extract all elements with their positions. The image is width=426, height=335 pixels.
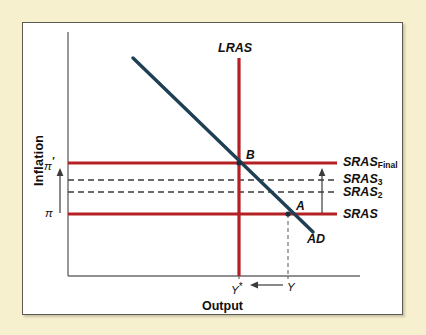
figure-root: Inflation Output π′ π Y* Y LRAS AD SRASF… xyxy=(0,0,426,335)
equilibrium-point-b-label: B xyxy=(246,149,255,161)
sras3-label-text: SRAS xyxy=(343,172,378,186)
x-tick-label-y: Y xyxy=(287,282,295,294)
equilibrium-point-a-marker xyxy=(285,211,290,216)
sras-label-text: SRAS xyxy=(343,207,378,221)
lras-label-text: LRAS xyxy=(218,41,252,55)
sras-final-label-text: SRAS xyxy=(343,155,378,169)
inflation-increase-arrow-left xyxy=(57,168,64,213)
lras-curve-label: LRAS xyxy=(218,42,252,55)
inflation-increase-arrow-right xyxy=(319,168,326,213)
x-axis-title: Output xyxy=(202,300,243,313)
x-tick-label-y-star: Y* xyxy=(231,282,243,296)
y-tick-label-pi-prime: π′ xyxy=(44,157,54,172)
y-tick-pi-prime-symbol: π xyxy=(44,160,52,172)
x-tick-y-symbol: Y xyxy=(287,281,295,293)
sras-final-curve-label: SRASFinal xyxy=(343,156,398,169)
ad-line xyxy=(133,58,313,232)
y-tick-pi-symbol: π xyxy=(45,207,53,219)
sras2-label-text: SRAS xyxy=(343,185,378,199)
y-tick-label-pi: π xyxy=(45,208,53,220)
equilibrium-point-b-marker xyxy=(236,160,241,165)
sras2-curve-label: SRAS2 xyxy=(343,186,382,199)
equilibrium-point-a-label: A xyxy=(296,200,305,212)
x-tick-y-star-symbol: Y xyxy=(231,284,239,296)
sras2-label-sub: 2 xyxy=(378,190,383,200)
sras-final-label-sub: Final xyxy=(378,160,398,170)
x-tick-y-star-sup: * xyxy=(239,281,243,292)
ad-label-text: AD xyxy=(307,232,325,246)
sras-curve-label: SRAS xyxy=(343,208,378,221)
ad-curve-label: AD xyxy=(307,233,325,246)
y-tick-pi-prime-sup: ′ xyxy=(52,156,54,167)
output-decrease-arrow xyxy=(250,282,283,289)
